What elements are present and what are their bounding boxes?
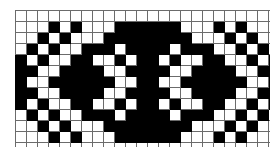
pattern-cell: [16, 33, 27, 44]
pattern-cell: [170, 22, 181, 33]
pattern-cell: [104, 55, 115, 66]
pattern-cell: [214, 33, 225, 44]
pattern-cell: [137, 110, 148, 121]
pattern-grid-row: [16, 22, 271, 33]
pattern-cell: [247, 99, 258, 110]
pattern-cell: [82, 132, 93, 143]
pattern-cell: [236, 55, 247, 66]
pattern-cell: [49, 132, 60, 143]
pattern-cell: [148, 22, 159, 33]
pattern-cell: [60, 77, 71, 88]
pattern-cell: [93, 132, 104, 143]
pattern-cell: [170, 11, 181, 22]
pattern-cell: [126, 121, 137, 132]
pattern-cell: [192, 110, 203, 121]
pattern-cell: [49, 11, 60, 22]
pattern-cell: [38, 33, 49, 44]
pattern-cell: [93, 55, 104, 66]
pattern-cell: [115, 44, 126, 55]
pattern-cell: [60, 132, 71, 143]
pattern-cell: [258, 22, 269, 33]
pattern-grid-row: [16, 55, 271, 66]
pattern-grid-row: [16, 121, 271, 132]
pattern-cell: [71, 77, 82, 88]
pattern-cell: [27, 77, 38, 88]
pattern-grid: [15, 10, 270, 147]
pattern-cell: [269, 88, 271, 99]
pattern-cell: [181, 11, 192, 22]
pattern-cell: [148, 110, 159, 121]
pattern-cell: [247, 11, 258, 22]
pattern-cell: [71, 44, 82, 55]
pattern-cell: [93, 66, 104, 77]
pattern-cell: [159, 110, 170, 121]
pattern-cell: [203, 143, 214, 148]
pattern-cell: [181, 110, 192, 121]
pattern-cell: [82, 110, 93, 121]
pattern-cell: [104, 121, 115, 132]
pattern-grid-row: [16, 44, 271, 55]
pattern-cell: [38, 132, 49, 143]
pattern-cell: [214, 88, 225, 99]
pattern-cell: [60, 110, 71, 121]
pattern-cell: [148, 44, 159, 55]
pattern-cell: [27, 132, 38, 143]
pattern-cell: [192, 143, 203, 148]
pattern-cell: [137, 88, 148, 99]
pattern-cell: [137, 99, 148, 110]
pattern-cell: [104, 143, 115, 148]
pattern-cell: [137, 143, 148, 148]
pattern-chart-page: [0, 0, 270, 147]
pattern-cell: [104, 99, 115, 110]
pattern-cell: [247, 55, 258, 66]
pattern-cell: [49, 77, 60, 88]
pattern-cell: [203, 44, 214, 55]
pattern-cell: [181, 77, 192, 88]
pattern-cell: [38, 44, 49, 55]
pattern-cell: [49, 110, 60, 121]
pattern-cell: [214, 11, 225, 22]
pattern-cell: [170, 99, 181, 110]
pattern-cell: [170, 132, 181, 143]
pattern-cell: [38, 99, 49, 110]
pattern-cell: [126, 11, 137, 22]
pattern-cell: [258, 55, 269, 66]
pattern-cell: [126, 99, 137, 110]
pattern-cell: [236, 99, 247, 110]
pattern-cell: [148, 66, 159, 77]
pattern-cell: [82, 88, 93, 99]
pattern-cell: [71, 121, 82, 132]
pattern-cell: [27, 143, 38, 148]
pattern-cell: [137, 44, 148, 55]
pattern-cell: [225, 11, 236, 22]
pattern-cell: [247, 121, 258, 132]
pattern-cell: [104, 11, 115, 22]
pattern-cell: [170, 110, 181, 121]
pattern-cell: [60, 44, 71, 55]
pattern-cell: [181, 99, 192, 110]
pattern-cell: [71, 99, 82, 110]
pattern-cell: [137, 22, 148, 33]
pattern-cell: [192, 55, 203, 66]
pattern-cell: [181, 44, 192, 55]
pattern-cell: [192, 11, 203, 22]
pattern-cell: [214, 110, 225, 121]
pattern-cell: [60, 11, 71, 22]
pattern-cell: [236, 132, 247, 143]
pattern-cell: [225, 132, 236, 143]
pattern-cell: [82, 99, 93, 110]
pattern-cell: [225, 33, 236, 44]
pattern-cell: [192, 132, 203, 143]
pattern-cell: [269, 66, 271, 77]
pattern-cell: [236, 22, 247, 33]
pattern-cell: [247, 44, 258, 55]
pattern-cell: [192, 88, 203, 99]
pattern-cell: [247, 132, 258, 143]
pattern-cell: [82, 11, 93, 22]
pattern-cell: [203, 11, 214, 22]
pattern-cell: [170, 77, 181, 88]
pattern-cell: [258, 110, 269, 121]
pattern-cell: [225, 143, 236, 148]
pattern-cell: [159, 55, 170, 66]
pattern-cell: [192, 77, 203, 88]
